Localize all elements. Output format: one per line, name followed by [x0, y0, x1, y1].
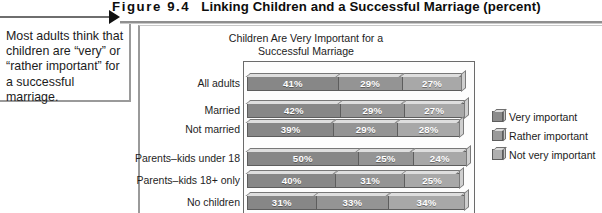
- bar-segment: 27%: [402, 76, 462, 91]
- bar-value-label: 25%: [376, 153, 396, 164]
- bar-value-label: 28%: [419, 124, 439, 135]
- bar-value-label: 29%: [356, 124, 376, 135]
- bar-group: 41%29%27%42%29%27%39%29%28%50%25%24%40%3…: [0, 0, 602, 213]
- bar-segment-top-face: [333, 170, 407, 174]
- bar-segment: 31%: [247, 195, 316, 210]
- legend-swatch-icon: [492, 149, 503, 160]
- legend-item[interactable]: Rather important: [492, 127, 602, 144]
- bar-segment-top-face: [336, 73, 405, 77]
- legend-item[interactable]: Very important: [492, 108, 602, 125]
- bar-segment-top-face: [386, 192, 466, 196]
- legend-swatch-icon: [492, 130, 503, 141]
- bar-segment-top-face: [395, 119, 462, 123]
- bar-value-label: 27%: [422, 78, 442, 89]
- bar-segment: 50%: [247, 151, 358, 166]
- bar-right-face: [461, 70, 466, 92]
- bar-segment: 29%: [338, 76, 402, 91]
- bar-value-label: 25%: [422, 175, 442, 186]
- bar-segment-top-face: [245, 170, 339, 174]
- bar-segment: 34%: [388, 195, 463, 210]
- bar-segment-top-face: [400, 73, 465, 77]
- bar-segment: 31%: [335, 173, 404, 188]
- bar-segment-top-face: [313, 192, 391, 196]
- bar-segment: 25%: [404, 173, 459, 188]
- bar-segment-top-face: [245, 119, 336, 123]
- bar-value-label: 33%: [343, 197, 363, 208]
- chart-legend: Very importantRather importantNot very i…: [492, 108, 602, 165]
- bar-segment-top-face: [245, 73, 341, 77]
- figure-page: Figure 9.4Linking Children and a Success…: [0, 0, 602, 213]
- legend-label: Rather important: [509, 130, 588, 142]
- bar-segment-top-face: [245, 148, 361, 152]
- bar-value-label: 29%: [360, 78, 380, 89]
- bar-segment: 25%: [358, 151, 413, 166]
- bar-value-label: 41%: [283, 78, 303, 89]
- bar-value-label: 34%: [417, 197, 437, 208]
- bar-right-face: [466, 145, 471, 167]
- bar-segment-top-face: [402, 100, 467, 104]
- bar-right-face: [459, 167, 464, 189]
- bar-segment: 28%: [397, 122, 459, 137]
- legend-swatch-icon: [492, 111, 503, 122]
- bar-right-face: [464, 97, 469, 119]
- legend-label: Not very important: [509, 149, 596, 161]
- bar-segment: 29%: [333, 122, 397, 137]
- bar-value-label: 27%: [424, 105, 444, 116]
- legend-label: Very important: [509, 111, 577, 123]
- bar-right-face: [459, 116, 464, 138]
- bar-segment: 24%: [413, 151, 466, 166]
- bar-segment-top-face: [331, 119, 400, 123]
- bar-value-label: 40%: [282, 175, 302, 186]
- bar-segment-top-face: [338, 100, 407, 104]
- bar-segment: 40%: [247, 173, 335, 188]
- bar-segment-top-face: [245, 100, 343, 104]
- bar-segment: 42%: [247, 103, 340, 118]
- bar-segment: 39%: [247, 122, 333, 137]
- bar-value-label: 50%: [293, 153, 313, 164]
- legend-item[interactable]: Not very important: [492, 146, 602, 163]
- bar-segment-top-face: [355, 148, 415, 152]
- bar-segment-top-face: [402, 170, 462, 174]
- bar-segment-top-face: [411, 148, 469, 152]
- bar-value-label: 31%: [272, 197, 292, 208]
- bar-value-label: 39%: [281, 124, 301, 135]
- bar-value-label: 31%: [360, 175, 380, 186]
- bar-segment: 33%: [316, 195, 389, 210]
- bar-segment-top-face: [245, 192, 319, 196]
- bar-segment: 41%: [247, 76, 338, 91]
- bar-right-face: [464, 189, 469, 211]
- bar-value-label: 42%: [284, 105, 304, 116]
- bar-value-label: 29%: [362, 105, 382, 116]
- bar-value-label: 24%: [430, 153, 450, 164]
- bar-segment: 27%: [404, 103, 464, 118]
- bar-segment: 29%: [340, 103, 404, 118]
